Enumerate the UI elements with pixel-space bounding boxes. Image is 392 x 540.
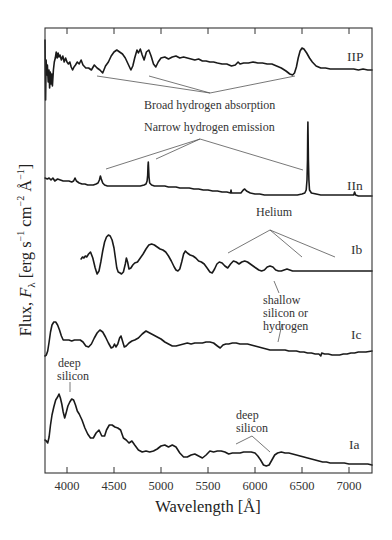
annotation-broad-hydrogen: Broad hydrogen absorption (144, 98, 275, 112)
x-axis-label: Wavelength [Å] (155, 497, 260, 516)
annotation-helium: Helium (256, 205, 293, 219)
plot-frame (45, 28, 372, 473)
label-Ic: Ic (351, 327, 362, 342)
x-tick-label: 5500 (196, 479, 221, 493)
label-Ia: Ia (349, 437, 360, 452)
x-tick-label: 6000 (243, 479, 268, 493)
annotation-shallow-2: silicon or (263, 306, 308, 320)
x-tick-label: 4000 (55, 479, 80, 493)
label-IIP: IIP (347, 49, 364, 64)
annotation-shallow-3: hydrogen (263, 319, 308, 333)
x-tick-label: 4500 (102, 479, 127, 493)
x-tick-label: 7000 (337, 479, 362, 493)
spectrum-Ia (45, 394, 372, 466)
annotation-deep-silicon-blue-2: silicon (57, 369, 89, 383)
x-tick-label: 6500 (290, 479, 315, 493)
spectrum-Ic (45, 322, 372, 356)
supernova-spectra-figure: 4000450050005500600065007000 IIP IIn Ib … (0, 0, 392, 540)
annotation-deep-silicon-blue-1: deep (58, 356, 81, 370)
label-Ib: Ib (351, 242, 362, 257)
annotation-deep-silicon-red-1: deep (236, 408, 259, 422)
spectrum-IIP (45, 40, 372, 100)
annotation-shallow-1: shallow (263, 293, 301, 307)
label-IIn: IIn (347, 178, 363, 193)
annotation-narrow-hydrogen: Narrow hydrogen emission (144, 120, 275, 134)
x-tick-label: 5000 (149, 479, 174, 493)
annotation-deep-silicon-red-2: silicon (236, 421, 268, 435)
y-axis-label: Flux, Fλ [erg s−1 cm−2 Å−1] (15, 164, 37, 337)
